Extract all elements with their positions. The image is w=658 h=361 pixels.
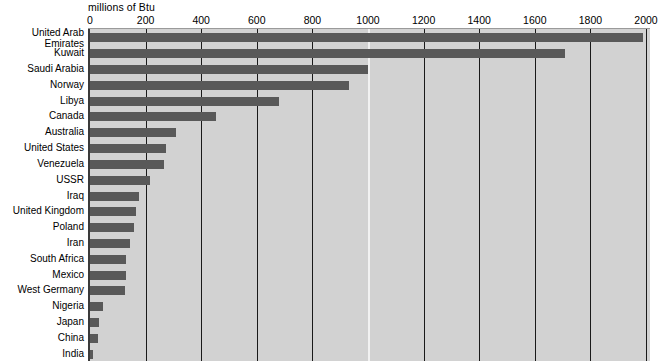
x-axis-tick-labels: 0200400600800100012001400160018002000	[0, 14, 653, 28]
category-label: India	[62, 349, 84, 360]
bar	[90, 81, 349, 90]
bar	[90, 223, 134, 232]
bar	[90, 160, 164, 169]
bar	[90, 318, 99, 327]
gridline	[479, 29, 480, 361]
category-label: USSR	[56, 175, 84, 186]
x-tick-label: 1600	[523, 14, 546, 26]
bar	[90, 128, 176, 137]
bar	[90, 65, 368, 74]
gridline	[257, 29, 258, 361]
category-label: Venezuela	[37, 159, 84, 170]
category-label: Iraq	[67, 191, 84, 202]
category-label: Kuwait	[54, 48, 84, 59]
x-tick-label: 0	[87, 14, 93, 26]
bar	[90, 334, 98, 343]
x-tick-label: 200	[137, 14, 155, 26]
plot-area	[88, 29, 650, 361]
category-label: Norway	[50, 80, 84, 91]
category-label: United ArabEmirates	[32, 27, 84, 49]
category-label: Saudi Arabia	[27, 64, 84, 75]
bar	[90, 144, 166, 153]
category-label: Iran	[67, 238, 84, 249]
x-tick-label: 1800	[579, 14, 602, 26]
bar	[90, 192, 139, 201]
category-label: Mexico	[52, 270, 84, 281]
category-label: Japan	[57, 317, 84, 328]
x-tick-label: 800	[304, 14, 322, 26]
category-labels: United ArabEmiratesKuwaitSaudi ArabiaNor…	[0, 29, 88, 361]
gridline	[368, 29, 370, 361]
x-tick-label: 1200	[412, 14, 435, 26]
gridline	[535, 29, 536, 361]
x-tick-label: 600	[248, 14, 266, 26]
x-tick-label: 1000	[356, 14, 379, 26]
gridline	[424, 29, 425, 361]
category-label: Poland	[53, 222, 84, 233]
category-label: Canada	[49, 111, 84, 122]
category-label: China	[58, 333, 84, 344]
bar	[90, 286, 125, 295]
gridline	[590, 29, 591, 361]
bar	[90, 207, 136, 216]
category-label: Australia	[45, 127, 84, 138]
bar	[90, 350, 93, 359]
x-tick-label: 2000	[634, 14, 657, 26]
bar	[90, 112, 216, 121]
gridline	[146, 29, 147, 361]
bar	[90, 176, 150, 185]
category-label: Nigeria	[52, 301, 84, 312]
bar	[90, 271, 126, 280]
axis-title: millions of Btu	[88, 1, 155, 13]
category-label: South Africa	[30, 254, 84, 265]
bar	[90, 255, 126, 264]
bar	[90, 302, 103, 311]
gridline	[646, 29, 647, 361]
x-tick-label: 400	[192, 14, 210, 26]
gridline	[201, 29, 202, 361]
category-label: Libya	[60, 96, 84, 107]
category-label: West Germany	[18, 285, 85, 296]
gridline	[312, 29, 313, 361]
bar	[90, 239, 130, 248]
bar	[90, 49, 565, 58]
bar	[90, 33, 643, 42]
bar	[90, 97, 279, 106]
x-tick-label: 1400	[468, 14, 491, 26]
category-label: United States	[24, 143, 84, 154]
category-label: United Kingdom	[13, 206, 84, 217]
